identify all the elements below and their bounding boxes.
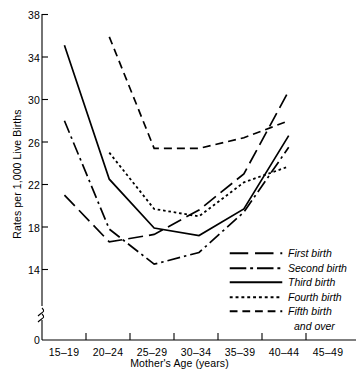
series-line-third-birth	[64, 45, 288, 235]
legend-label-fifth-birth: Fifth birth	[288, 305, 332, 317]
legend-item-second-birth: Second birth	[228, 261, 356, 276]
legend-key-long-dash	[228, 246, 284, 261]
series-line-fifth-birth-and-over	[109, 37, 288, 149]
legend-key-dash	[228, 304, 284, 319]
chart-legend: First birth Second birth Third birth Fou…	[228, 246, 356, 334]
legend-item-first-birth: First birth	[228, 246, 356, 261]
axis-break-icon	[38, 308, 44, 322]
y-tick-marks	[42, 15, 48, 270]
legend-label-third-birth: Third birth	[288, 276, 335, 288]
series-line-first-birth	[64, 91, 288, 242]
legend-label-fourth-birth: Fourth birth	[288, 291, 342, 303]
legend-label-first-birth: First birth	[288, 247, 332, 259]
legend-item-fourth-birth: Fourth birth	[228, 290, 356, 305]
legend-item-third-birth: Third birth	[228, 275, 356, 290]
legend-label-fifth-birth-cont: and over	[294, 320, 335, 332]
legend-key-solid	[228, 275, 284, 290]
data-series-layer	[64, 37, 288, 264]
line-chart: Rates per 1,000 Live Births Mother's Age…	[0, 0, 359, 379]
legend-key-dotted	[228, 290, 284, 305]
series-line-second-birth	[64, 121, 288, 264]
legend-key-dash-dot	[228, 261, 284, 276]
legend-item-fifth-birth: Fifth birth	[228, 304, 356, 319]
series-line-fourth-birth	[109, 153, 288, 217]
legend-label-second-birth: Second birth	[288, 262, 347, 274]
x-tick-marks	[86, 333, 306, 340]
legend-item-fifth-birth-cont: and over	[228, 319, 356, 334]
